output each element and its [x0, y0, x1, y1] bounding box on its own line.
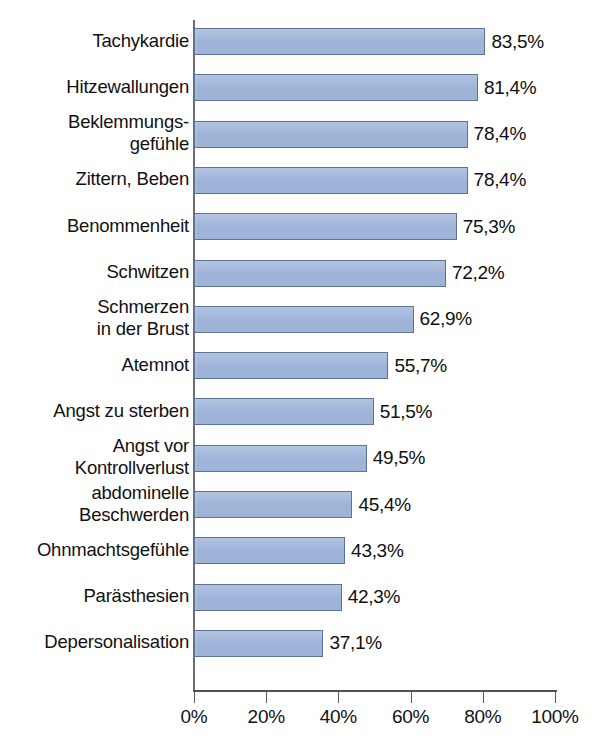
bar-value-label: 72,2% — [452, 262, 504, 284]
bar-category-label: Tachykardie — [0, 30, 189, 52]
axis-tick-label: 0% — [181, 706, 208, 728]
bar — [194, 537, 345, 564]
bar-value-label: 37,1% — [329, 632, 381, 654]
bar — [194, 28, 485, 55]
axis-tick — [483, 692, 484, 703]
value-axis-line — [193, 690, 557, 692]
bar-category-label: Zittern, Beben — [0, 168, 189, 190]
bar-value-label: 62,9% — [420, 308, 472, 330]
bar — [194, 445, 367, 472]
bar-category-label: Parästhesien — [0, 585, 189, 607]
bar — [194, 213, 457, 240]
bar-value-label: 83,5% — [491, 31, 543, 53]
bar-category-label: Atemnot — [0, 354, 189, 376]
bar-value-label: 42,3% — [348, 586, 400, 608]
bar-category-label: Schwitzen — [0, 261, 189, 283]
bar-category-label: Ohnmachtsgefühle — [0, 539, 189, 561]
axis-tick-label: 100% — [531, 706, 578, 728]
bar-value-label: 45,4% — [358, 494, 410, 516]
axis-tick — [194, 692, 195, 703]
bar-category-label: abdominelle Beschwerden — [0, 482, 189, 526]
axis-tick — [411, 692, 412, 703]
bar-category-label: Beklemmungs- gefühle — [0, 111, 189, 155]
bar-value-label: 78,4% — [474, 123, 526, 145]
bar — [194, 260, 446, 287]
bar — [194, 121, 468, 148]
axis-tick — [555, 692, 556, 703]
bar — [194, 352, 388, 379]
bar-chart: 0%20%40%60%80%100% Tachykardie83,5%Hitze… — [0, 0, 603, 756]
bar — [194, 167, 468, 194]
bar — [194, 584, 342, 611]
bar-value-label: 49,5% — [373, 447, 425, 469]
bar-value-label: 51,5% — [380, 401, 432, 423]
bar-value-label: 78,4% — [474, 169, 526, 191]
plot-area: 0%20%40%60%80%100% Tachykardie83,5%Hitze… — [0, 0, 603, 756]
axis-tick-label: 20% — [248, 706, 285, 728]
bar-value-label: 55,7% — [394, 355, 446, 377]
bar-value-label: 81,4% — [484, 77, 536, 99]
axis-tick-label: 40% — [320, 706, 357, 728]
bar — [194, 630, 323, 657]
bar-category-label: Depersonalisation — [0, 631, 189, 653]
bar-category-label: Hitzewallungen — [0, 76, 189, 98]
bar-value-label: 43,3% — [351, 540, 403, 562]
bar-category-label: Schmerzen in der Brust — [0, 296, 189, 340]
bar-category-label: Angst vor Kontrollverlust — [0, 435, 189, 479]
bar — [194, 74, 478, 101]
axis-tick — [338, 692, 339, 703]
bar-category-label: Benommenheit — [0, 215, 189, 237]
bar — [194, 491, 352, 518]
bar — [194, 398, 374, 425]
bar-value-label: 75,3% — [463, 216, 515, 238]
axis-tick-label: 60% — [392, 706, 429, 728]
axis-tick — [266, 692, 267, 703]
bar — [194, 306, 414, 333]
bar-category-label: Angst zu sterben — [0, 400, 189, 422]
axis-tick-label: 80% — [464, 706, 501, 728]
